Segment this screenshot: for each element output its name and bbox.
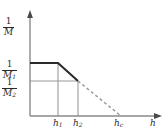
x-tick-h2-subscript: 2 xyxy=(79,121,83,128)
y-tick-fraction-m2: 1 M2 xyxy=(2,78,17,98)
x-tick-h1-subscript: 1 xyxy=(59,121,63,128)
y-axis-label-numerator: 1 xyxy=(5,17,13,26)
x-tick-hc-subscript: c xyxy=(120,121,123,128)
y-axis-label-denominator: M xyxy=(3,28,14,37)
y-axis-arrowhead xyxy=(27,10,33,18)
x-axis-label: h xyxy=(150,119,156,128)
axes xyxy=(30,16,157,116)
y-tick-m2-denominator: M2 xyxy=(2,89,17,98)
x-axis-tick-hc: hc xyxy=(114,119,123,128)
y-axis-label: 1 M xyxy=(3,11,14,37)
curve-solid-segment xyxy=(30,63,78,81)
guide-lines xyxy=(30,63,78,116)
y-axis-tick-1-over-m2: 1 M2 xyxy=(2,72,17,98)
y-tick-m2-subscript: 2 xyxy=(12,91,16,98)
y-axis-label-fraction: 1 M xyxy=(3,17,14,37)
x-axis-tick-h2: h2 xyxy=(73,119,83,128)
y-tick-m1-numerator: 1 xyxy=(6,60,14,69)
x-axis-tick-h1: h1 xyxy=(53,119,63,128)
figure-container: 1 M 1 M1 1 M2 h1 h2 hc h xyxy=(0,0,166,140)
plot-canvas xyxy=(0,0,166,140)
y-tick-m2-numerator: 1 xyxy=(6,78,14,87)
curve-dashed-extrapolation xyxy=(78,81,121,116)
